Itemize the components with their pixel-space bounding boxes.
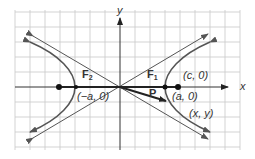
focus-2-letter: F bbox=[82, 68, 89, 80]
focus-2-label: F2 bbox=[82, 69, 93, 81]
focus-2-subscript: 2 bbox=[89, 74, 93, 81]
vertex-left-dot bbox=[74, 85, 78, 89]
vertex-right-dot bbox=[163, 85, 168, 90]
focus-1-letter: F bbox=[147, 68, 154, 80]
point-p-label: P bbox=[149, 88, 156, 99]
vector-p bbox=[120, 87, 166, 101]
y-axis-label: y bbox=[117, 5, 123, 16]
focus-2-dot bbox=[56, 84, 62, 90]
focus-1-subscript: 1 bbox=[154, 74, 158, 81]
diagram-canvas bbox=[0, 0, 255, 159]
vertex-left-label: (−a, 0) bbox=[77, 91, 109, 102]
focus-1-label: F1 bbox=[147, 69, 158, 81]
x-axis-label: x bbox=[240, 81, 246, 92]
point-xy-label: (x, y) bbox=[189, 108, 213, 119]
hyperbola-diagram: y x F2 F1 P (c, 0) (a, 0) (−a, 0) (x, y) bbox=[0, 0, 255, 159]
vertex-right-label: (a, 0) bbox=[172, 91, 198, 102]
focus-1-coord-label: (c, 0) bbox=[183, 70, 208, 81]
